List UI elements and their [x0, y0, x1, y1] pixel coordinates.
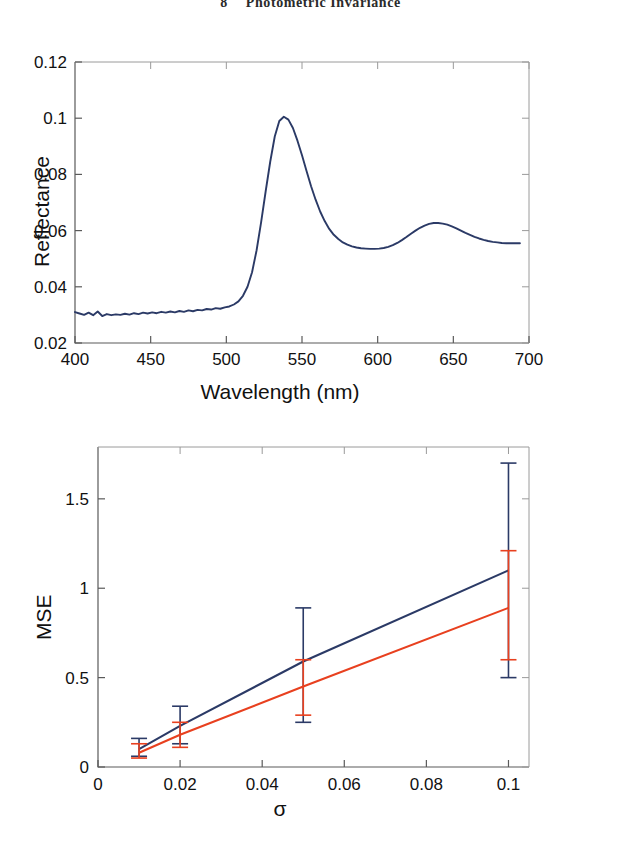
mse-x-tick-label: 0.04 [246, 775, 279, 790]
page-header: 8Photometric Invariance [0, 0, 621, 11]
mse-y-axis-label: MSE [32, 594, 56, 640]
reflectance-x-tick-label: 550 [288, 350, 316, 369]
reflectance-y-tick-label: 0.02 [34, 334, 67, 353]
mse-x-tick-label: 0 [93, 775, 102, 790]
figure-reflectance-spectrum: 4004505005506006507000.020.040.060.080.1… [0, 22, 621, 417]
reflectance-x-tick-label: 500 [212, 350, 240, 369]
mse-y-tick-label: 0.5 [65, 669, 89, 688]
reflectance-plot: 4004505005506006507000.020.040.060.080.1… [0, 22, 621, 372]
mse-line-series-navy [139, 570, 508, 749]
reflectance-y-tick-label: 0.1 [43, 109, 67, 128]
mse-x-tick-label: 0.02 [164, 775, 197, 790]
reflectance-curve [75, 117, 520, 316]
reflectance-x-tick-label: 700 [515, 350, 543, 369]
header-chapter-title: Photometric Invariance [246, 0, 401, 10]
mse-axis-spines [98, 447, 529, 767]
mse-y-tick-label: 0 [80, 758, 89, 777]
reflectance-x-tick-label: 450 [136, 350, 164, 369]
mse-x-tick-label: 0.1 [497, 775, 521, 790]
header-chapter-number: 8 [220, 0, 228, 10]
mse-x-tick-label: 0.06 [328, 775, 361, 790]
figure-mse-vs-sigma: 00.020.040.060.080.100.511.5 MSE σ [0, 425, 621, 855]
reflectance-axis-spines [75, 62, 529, 343]
reflectance-y-tick-label: 0.12 [34, 53, 67, 72]
mse-errorbar [500, 551, 516, 660]
reflectance-y-tick-label: 0.04 [34, 278, 67, 297]
reflectance-y-axis-label: Reflectance [30, 156, 54, 267]
mse-errorbar [295, 660, 311, 715]
mse-axis-box [98, 447, 529, 767]
mse-y-tick-label: 1 [80, 579, 89, 598]
mse-x-tick-label: 0.08 [410, 775, 443, 790]
mse-plot: 00.020.040.060.080.100.511.5 [0, 425, 621, 790]
mse-y-tick-label: 1.5 [65, 490, 89, 509]
mse-line-series-red [139, 608, 508, 753]
reflectance-x-axis-label: Wavelength (nm) [0, 380, 560, 404]
reflectance-axis-box [75, 62, 529, 343]
mse-x-axis-label: σ [0, 797, 560, 821]
reflectance-x-tick-label: 600 [363, 350, 391, 369]
page: 8Photometric Invariance 4004505005506006… [0, 0, 621, 860]
reflectance-x-tick-label: 650 [439, 350, 467, 369]
